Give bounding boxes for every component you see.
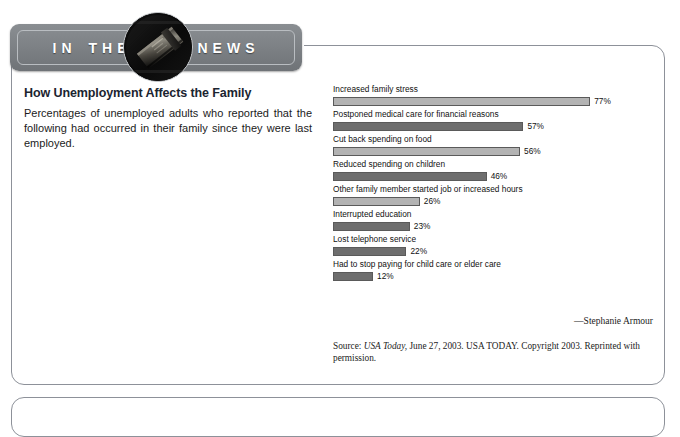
- bar-row: Cut back spending on food56%: [333, 134, 633, 157]
- bar: [333, 222, 410, 231]
- bar: [333, 147, 520, 156]
- bar-value-label: 22%: [410, 246, 427, 256]
- byline: —Stephanie Armour: [574, 316, 653, 326]
- bar: [333, 97, 590, 106]
- bar-category-label: Increased family stress: [333, 84, 633, 95]
- source-credit: Source: USA Today, June 27, 2003. USA TO…: [333, 340, 643, 364]
- bar: [333, 122, 523, 131]
- bar-line: 56%: [333, 145, 633, 157]
- horizontal-bar-chart: Increased family stress77%Postponed medi…: [333, 84, 633, 284]
- bar-value-label: 23%: [414, 221, 431, 231]
- badge-photo-image: [124, 13, 192, 81]
- bar-category-label: Lost telephone service: [333, 234, 633, 245]
- bar-value-label: 56%: [524, 146, 541, 156]
- bar: [333, 247, 406, 256]
- bar-row: Interrupted education23%: [333, 209, 633, 232]
- bar-line: 57%: [333, 120, 633, 132]
- bar-row: Postponed medical care for financial rea…: [333, 109, 633, 132]
- bar-category-label: Other family member started job or incre…: [333, 184, 633, 195]
- bar-row: Reduced spending on children46%: [333, 159, 633, 182]
- bar-category-label: Postponed medical care for financial rea…: [333, 109, 633, 120]
- bar-line: 77%: [333, 95, 633, 107]
- bar-row: Increased family stress77%: [333, 84, 633, 107]
- bar-value-label: 12%: [377, 271, 394, 281]
- bar-line: 46%: [333, 170, 633, 182]
- bar-line: 12%: [333, 270, 633, 282]
- bar: [333, 172, 487, 181]
- bar-category-label: Cut back spending on food: [333, 134, 633, 145]
- source-publication: USA Today,: [364, 341, 407, 351]
- bar-value-label: 46%: [491, 171, 508, 181]
- bar-value-label: 57%: [527, 121, 544, 131]
- bar-category-label: Had to stop paying for child care or eld…: [333, 259, 633, 270]
- page-title: How Unemployment Affects the Family: [24, 86, 314, 100]
- bar-value-label: 26%: [424, 196, 441, 206]
- bar: [333, 197, 420, 206]
- source-prefix: Source:: [333, 341, 364, 351]
- bar-category-label: Interrupted education: [333, 209, 633, 220]
- newspaper-photo-badge-icon: [123, 12, 193, 82]
- bar-line: 22%: [333, 245, 633, 257]
- bar: [333, 272, 373, 281]
- bar-row: Had to stop paying for child care or eld…: [333, 259, 633, 282]
- banner-word-in: IN: [53, 40, 77, 56]
- bar-row: Other family member started job or incre…: [333, 184, 633, 207]
- bar-category-label: Reduced spending on children: [333, 159, 633, 170]
- bar-value-label: 77%: [594, 96, 611, 106]
- bar-line: 26%: [333, 195, 633, 207]
- bar-row: Lost telephone service22%: [333, 234, 633, 257]
- bar-line: 23%: [333, 220, 633, 232]
- article-deck: Percentages of unemployed adults who rep…: [24, 106, 312, 151]
- next-article-panel: [11, 397, 665, 437]
- banner-word-news: NEWS: [198, 40, 260, 56]
